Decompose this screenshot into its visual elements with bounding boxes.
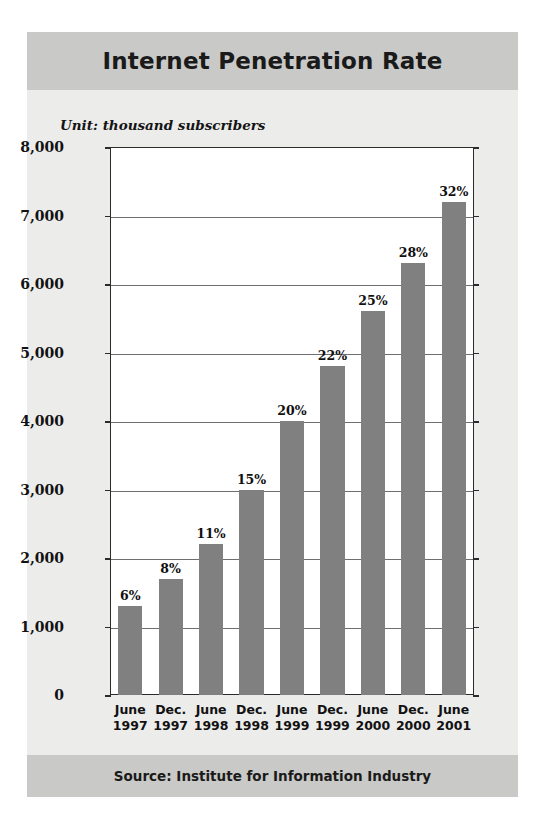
bar bbox=[320, 366, 344, 695]
bar-group: 28% bbox=[393, 147, 433, 695]
x-axis-tick-label: June2001 bbox=[434, 702, 474, 734]
bar-value-label: 25% bbox=[358, 293, 387, 308]
x-label-year: 1999 bbox=[272, 718, 312, 734]
x-axis-tick-label: June1997 bbox=[110, 702, 150, 734]
chart-area: 6%8%11%15%20%22%25%28%32% June1997Dec.19… bbox=[27, 32, 518, 797]
bar bbox=[442, 202, 466, 695]
bar bbox=[159, 579, 183, 695]
bar-group: 6% bbox=[110, 147, 150, 695]
bar bbox=[118, 606, 142, 695]
x-axis-tick-label: June1998 bbox=[191, 702, 231, 734]
x-axis-tick-label: Dec.2000 bbox=[393, 702, 433, 734]
x-label-month: Dec. bbox=[393, 702, 433, 718]
x-label-month: June bbox=[353, 702, 393, 718]
x-label-month: June bbox=[434, 702, 474, 718]
bar-value-label: 20% bbox=[277, 403, 306, 418]
bar-group: 22% bbox=[312, 147, 352, 695]
x-axis-tick-label: Dec.1999 bbox=[312, 702, 352, 734]
x-label-year: 1997 bbox=[110, 718, 150, 734]
y-axis-tick-label: 1,000 bbox=[20, 619, 64, 635]
bar bbox=[239, 490, 263, 696]
bar-value-label: 11% bbox=[196, 526, 225, 541]
bars-layer: 6%8%11%15%20%22%25%28%32% bbox=[110, 147, 474, 695]
source-note: Source: Institute for Information Indust… bbox=[114, 768, 431, 784]
bar-value-label: 8% bbox=[160, 561, 181, 576]
x-axis-labels: June1997Dec.1997June1998Dec.1998June1999… bbox=[110, 702, 474, 748]
x-label-month: June bbox=[191, 702, 231, 718]
x-axis-tick-label: June1999 bbox=[272, 702, 312, 734]
y-axis-tick-label: 4,000 bbox=[20, 413, 64, 429]
x-label-year: 1999 bbox=[312, 718, 352, 734]
axis-tick bbox=[473, 695, 479, 697]
y-axis-tick-label: 2,000 bbox=[20, 550, 64, 566]
chart-figure: Internet Penetration Rate Unit: thousand… bbox=[27, 32, 518, 797]
bar bbox=[199, 544, 223, 695]
y-axis-tick-label: 8,000 bbox=[20, 139, 64, 155]
bar-value-label: 15% bbox=[237, 472, 266, 487]
x-label-year: 1998 bbox=[231, 718, 271, 734]
bar-value-label: 28% bbox=[399, 245, 428, 260]
axis-tick bbox=[105, 695, 111, 697]
bar-group: 20% bbox=[272, 147, 312, 695]
y-axis-tick-label: 0 bbox=[54, 687, 64, 703]
x-label-year: 1997 bbox=[150, 718, 190, 734]
y-axis-tick-label: 3,000 bbox=[20, 482, 64, 498]
x-label-month: Dec. bbox=[150, 702, 190, 718]
source-banner: Source: Institute for Information Indust… bbox=[27, 755, 518, 797]
page: Internet Penetration Rate Unit: thousand… bbox=[0, 0, 544, 827]
x-label-year: 2000 bbox=[393, 718, 433, 734]
x-label-month: Dec. bbox=[312, 702, 352, 718]
x-label-year: 2000 bbox=[353, 718, 393, 734]
bar-value-label: 6% bbox=[120, 588, 141, 603]
x-axis-tick-label: June2000 bbox=[353, 702, 393, 734]
x-label-month: June bbox=[110, 702, 150, 718]
bar-value-label: 32% bbox=[439, 184, 468, 199]
bar-group: 32% bbox=[434, 147, 474, 695]
bar-group: 8% bbox=[150, 147, 190, 695]
x-axis-tick-label: Dec.1998 bbox=[231, 702, 271, 734]
x-label-month: Dec. bbox=[231, 702, 271, 718]
y-axis-tick-label: 6,000 bbox=[20, 276, 64, 292]
y-axis-tick-label: 5,000 bbox=[20, 345, 64, 361]
bar-group: 11% bbox=[191, 147, 231, 695]
x-label-year: 1998 bbox=[191, 718, 231, 734]
bar bbox=[401, 263, 425, 695]
bar bbox=[361, 311, 385, 695]
bar-group: 25% bbox=[353, 147, 393, 695]
x-label-year: 2001 bbox=[434, 718, 474, 734]
bar-value-label: 22% bbox=[318, 348, 347, 363]
bar bbox=[280, 421, 304, 695]
x-axis-tick-label: Dec.1997 bbox=[150, 702, 190, 734]
y-axis-tick-label: 7,000 bbox=[20, 208, 64, 224]
x-label-month: June bbox=[272, 702, 312, 718]
bar-group: 15% bbox=[231, 147, 271, 695]
